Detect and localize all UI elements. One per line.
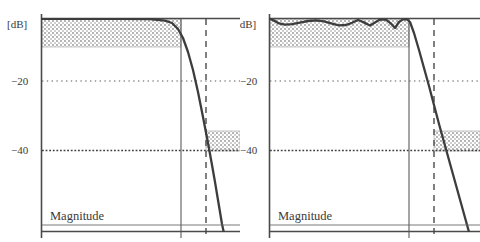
- series-label-magnitude: Magnitude: [50, 209, 105, 223]
- y-tick-label-minus20: −20: [240, 75, 258, 87]
- y-tick-label-minus20: −20: [11, 75, 29, 87]
- chart-panel-left: [dB] −20 −40 Magnitude: [0, 0, 240, 242]
- y-axis-unit-label: [dB]: [240, 18, 256, 30]
- figure-root: [dB] −20 −40 Magnitude: [0, 0, 480, 242]
- series-label-magnitude: Magnitude: [278, 209, 333, 223]
- chart-panel-right: [dB] −20 −40 Magnitude: [240, 0, 480, 242]
- y-axis-unit-label: [dB]: [7, 18, 27, 30]
- magnitude-response-curve: [270, 19, 472, 240]
- passband-tolerance-band: [42, 19, 181, 47]
- magnitude-plot-equiripple: [dB] −20 −40 Magnitude: [240, 0, 480, 242]
- magnitude-plot-monotone: [dB] −20 −40 Magnitude: [0, 0, 240, 242]
- y-tick-label-minus40: −40: [11, 144, 29, 156]
- y-tick-label-minus40: −40: [240, 144, 258, 156]
- stopband-tolerance-band: [206, 131, 240, 151]
- magnitude-response-curve: [42, 19, 225, 238]
